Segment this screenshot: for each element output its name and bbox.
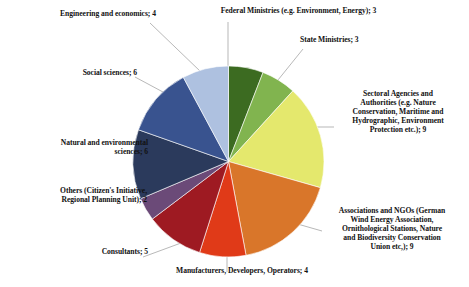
slice-label-associations-ngos: Associations and NGOs (German Wind Energ… bbox=[318, 206, 466, 251]
slice-label-manufacturers: Manufacturers, Developers, Operators; 4 bbox=[142, 266, 342, 275]
leader-line-engineering bbox=[150, 23, 201, 72]
slice-label-engineering-economics: Engineering and economics; 4 bbox=[28, 9, 188, 18]
slice-label-natural-sciences: Natural and environmental sciences; 6 bbox=[10, 138, 148, 156]
leader-line-state bbox=[278, 49, 303, 80]
pie-slices-group bbox=[133, 66, 324, 257]
slice-label-others: Others (Citizen's Initiative, Regional P… bbox=[12, 186, 147, 204]
slice-label-federal-ministries: Federal Ministries (e.g. Environment, En… bbox=[196, 6, 401, 15]
slice-label-state-ministries: State Ministries; 3 bbox=[300, 35, 440, 44]
slice-label-social-sciences: Social sciences; 6 bbox=[12, 68, 137, 77]
slice-label-consultants: Consultants; 5 bbox=[38, 247, 148, 256]
leader-line-consultants bbox=[143, 243, 181, 257]
slice-label-sectoral-agencies: Sectoral Agencies and Authorities (e.g. … bbox=[330, 89, 466, 134]
pie-chart-figure: Federal Ministries (e.g. Environment, En… bbox=[0, 0, 469, 287]
